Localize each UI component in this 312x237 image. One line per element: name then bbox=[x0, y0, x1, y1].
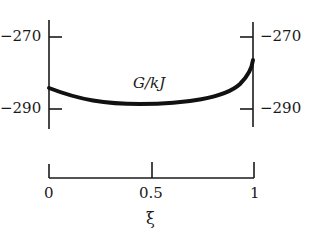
right-tick-label-270: −270 bbox=[260, 29, 301, 44]
x-tick-label-05: 0.5 bbox=[139, 186, 163, 201]
left-tick-label-290: −290 bbox=[0, 101, 41, 116]
left-tick-label-270: −270 bbox=[0, 29, 41, 44]
right-tick-label-290: −290 bbox=[260, 101, 301, 116]
x-tick-label-0: 0 bbox=[44, 186, 54, 201]
x-axis-label: ξ bbox=[146, 211, 155, 227]
curve-label: G/kJ bbox=[133, 76, 165, 91]
x-tick-label-1: 1 bbox=[250, 186, 260, 201]
